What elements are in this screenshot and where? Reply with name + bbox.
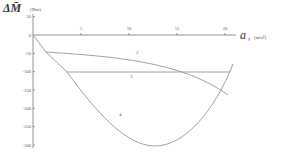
curve-2	[46, 52, 228, 95]
x-axis-subscript: y	[248, 36, 251, 41]
svg-text:50: 50	[27, 14, 32, 19]
svg-text:20: 20	[223, 26, 228, 31]
svg-text:15: 15	[175, 26, 180, 31]
curve-label-4: 4	[119, 112, 122, 117]
svg-text:-50: -50	[25, 51, 32, 56]
svg-text:-200: -200	[23, 106, 32, 111]
y-axis-symbol: ΔM̄	[2, 1, 22, 15]
x-tick-labels: 5 10 15 20	[80, 26, 228, 31]
svg-text:0: 0	[29, 33, 32, 38]
svg-text:-150: -150	[23, 88, 32, 93]
curve-4	[67, 64, 233, 146]
x-axis-unit: (m/s²)	[254, 35, 266, 40]
chart: ΔM̄ (Nm) 50 0 -50 -100 -150 -200 -250 -3…	[0, 0, 290, 159]
svg-text:10: 10	[127, 26, 132, 31]
svg-text:-300: -300	[23, 143, 32, 148]
svg-text:5: 5	[80, 26, 83, 31]
svg-text:-250: -250	[23, 124, 32, 129]
y-tick-labels: 50 0 -50 -100 -150 -200 -250 -300	[23, 14, 32, 147]
x-axis-symbol: a	[240, 28, 246, 42]
y-axis-unit: (Nm)	[30, 7, 41, 12]
curve-label-3: 3	[130, 74, 133, 79]
svg-text:-100: -100	[23, 69, 32, 74]
curve-label-2: 2	[136, 50, 139, 55]
